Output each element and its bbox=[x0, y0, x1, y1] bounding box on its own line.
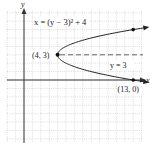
x-intercept-point bbox=[131, 78, 135, 82]
axis-of-symmetry-label: y = 3 bbox=[110, 61, 127, 70]
vertex-label: (4, 3) bbox=[32, 51, 50, 60]
point-13-6 bbox=[131, 28, 135, 32]
x-intercept-label: (13, 0) bbox=[118, 85, 140, 94]
axes bbox=[7, 10, 143, 143]
curve-arrow-top-icon bbox=[143, 25, 149, 30]
equation-label: x = (y − 3)² + 4 bbox=[34, 17, 87, 27]
parabola-graph: x = (y − 3)² + 4 (4, 3) y = 3 (13, 0) x … bbox=[0, 0, 152, 153]
x-axis-label: x bbox=[145, 76, 150, 85]
vertex-point bbox=[56, 53, 60, 57]
grid bbox=[7, 11, 142, 143]
y-axis-label: y bbox=[20, 0, 25, 9]
